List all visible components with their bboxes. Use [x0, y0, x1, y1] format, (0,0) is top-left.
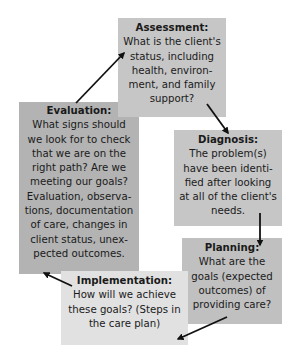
planning-title: Planning: — [182, 241, 282, 255]
evaluation-text: What signs should we look for to check t… — [19, 118, 139, 261]
evaluation-box: Evaluation: What signs should we look fo… — [19, 102, 139, 274]
implementation-box: Implementation: How will we achieve thes… — [61, 271, 188, 345]
assessment-box: Assessment: What is the client's status,… — [118, 18, 226, 117]
diagnosis-text: The problem(s) have been identi- fied af… — [174, 147, 282, 218]
assessment-text: What is the client's status, including h… — [118, 35, 226, 106]
planning-text: What are the goals (expected outcomes) o… — [182, 255, 282, 312]
assessment-title: Assessment: — [118, 21, 226, 35]
planning-box: Planning: What are the goals (expected o… — [182, 238, 282, 324]
arrow-evaluation-to-assessment — [76, 53, 124, 103]
diagnosis-box: Diagnosis: The problem(s) have been iden… — [174, 130, 282, 226]
implementation-title: Implementation: — [61, 274, 188, 288]
diagnosis-title: Diagnosis: — [174, 133, 282, 147]
implementation-text: How will we achieve these goals? (Steps … — [61, 288, 188, 331]
